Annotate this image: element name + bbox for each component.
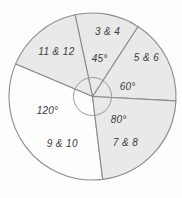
slice-label-9-10: 9 & 10	[47, 138, 78, 149]
pie-chart: 3 & 445°5 & 660°7 & 880°9 & 10120°11 & 1…	[0, 0, 182, 198]
pie-chart-figure: 3 & 445°5 & 660°7 & 880°9 & 10120°11 & 1…	[0, 0, 182, 198]
slice-label-7-8: 7 & 8	[113, 137, 138, 148]
angle-label-7-8: 80°	[111, 114, 127, 125]
angle-label-3-4: 45°	[92, 53, 108, 64]
angle-label-9-10: 120°	[37, 105, 58, 116]
angle-label-5-6: 60°	[120, 81, 136, 92]
slice-label-5-6: 5 & 6	[134, 52, 159, 63]
slice-label-11-12: 11 & 12	[38, 46, 75, 57]
slice-label-3-4: 3 & 4	[95, 26, 120, 37]
